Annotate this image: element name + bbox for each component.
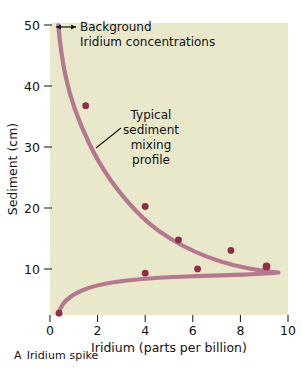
x-tick-label-6: 6 — [189, 323, 197, 338]
x-tick-label-0: 0 — [46, 323, 54, 338]
data-point — [263, 263, 271, 271]
y-tick-label-20: 20 — [24, 201, 40, 216]
mixing-annotation-line4: profile — [132, 153, 170, 167]
x-axis-title: Iridium (parts per billion) — [91, 340, 247, 355]
y-tick-label-40: 40 — [24, 79, 40, 94]
x-tick-label-8: 8 — [236, 323, 244, 338]
plot-area-background — [50, 23, 288, 315]
data-point — [142, 270, 149, 277]
background-annotation-line1: Background — [80, 20, 152, 34]
data-point — [142, 203, 149, 210]
x-tick-label-4: 4 — [141, 323, 149, 338]
iridium-spike-chart: 50 40 30 20 10 Sediment (cm) 0 2 4 6 — [0, 0, 302, 372]
y-tick-label-30: 30 — [24, 140, 40, 155]
data-point — [82, 102, 89, 109]
figure-caption-text: Iridium spike — [27, 349, 99, 362]
data-point — [175, 237, 182, 244]
y-tick-label-50: 50 — [24, 18, 40, 33]
mixing-annotation-line1: Typical — [130, 108, 172, 122]
background-annotation-line2: Iridium concentrations — [80, 35, 215, 49]
x-tick-label-2: 2 — [94, 323, 102, 338]
figure-caption: AIridium spike — [14, 349, 99, 362]
y-tick-label-10: 10 — [24, 262, 40, 277]
figure-iridium-spike: 50 40 30 20 10 Sediment (cm) 0 2 4 6 — [0, 0, 302, 372]
data-point — [194, 266, 201, 273]
y-axis-title: Sediment (cm) — [5, 123, 20, 216]
data-point — [56, 310, 63, 317]
data-point — [228, 247, 235, 254]
x-tick-label-10: 10 — [280, 323, 296, 338]
x-axis: 0 2 4 6 8 10 — [46, 315, 296, 338]
figure-caption-letter: A — [14, 349, 22, 362]
mixing-annotation-line3: mixing — [131, 138, 172, 152]
y-axis: 50 40 30 20 10 — [24, 18, 52, 277]
mixing-annotation-line2: sediment — [123, 123, 179, 137]
